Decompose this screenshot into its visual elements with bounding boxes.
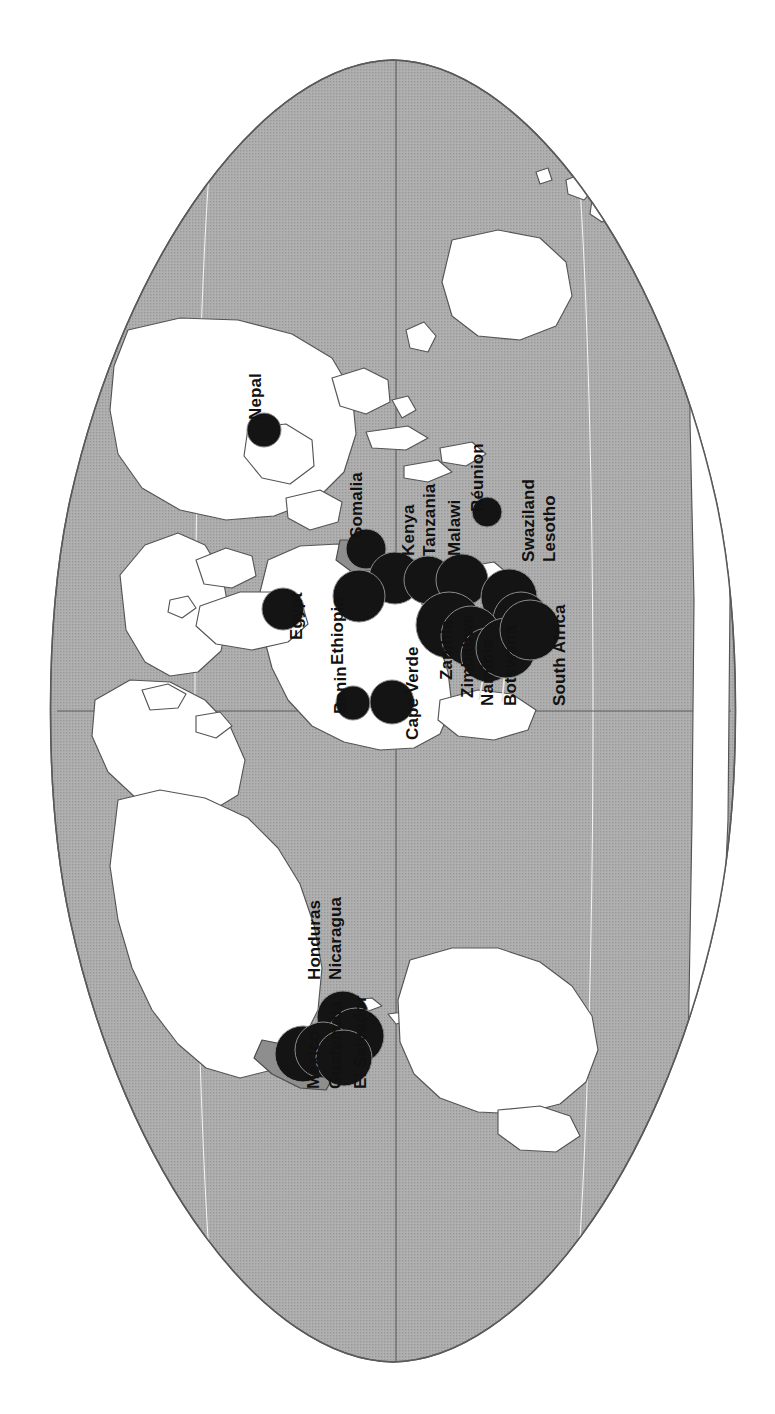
country-label: Malawi: [446, 500, 463, 556]
country-label: Egypt: [288, 592, 305, 640]
country-label: Ethiopia: [329, 597, 346, 665]
country-label: Honduras: [306, 900, 323, 980]
country-label: South Africa: [551, 604, 568, 706]
country-label: Nepal: [247, 373, 264, 420]
country-label: Kenya: [400, 504, 417, 556]
country-label: Tanzania: [421, 484, 438, 556]
country-label: Réunion: [469, 443, 486, 512]
country-label: Botswana: [502, 625, 519, 706]
country-label: Benin: [332, 666, 349, 714]
country-label: Namibia: [479, 639, 496, 706]
country-label: Nicaragua: [327, 897, 344, 980]
country-label: Cape Verde: [404, 646, 421, 740]
country-label: Somalia: [348, 472, 365, 538]
world-map-figure: NepalSomaliaKenyaTanzaniaMalawiRéunionSw…: [0, 0, 775, 1414]
country-label: Mexico: [305, 1031, 322, 1089]
country-label: Zambia: [438, 620, 455, 680]
country-label: El Salvador: [352, 995, 369, 1089]
country-label: Guatemala: [327, 1001, 344, 1089]
country-label: Zimbabwe: [459, 614, 476, 698]
country-label-layer: NepalSomaliaKenyaTanzaniaMalawiRéunionSw…: [0, 0, 775, 1414]
country-label: Lesotho: [541, 495, 558, 562]
country-label: Swaziland: [520, 479, 537, 562]
